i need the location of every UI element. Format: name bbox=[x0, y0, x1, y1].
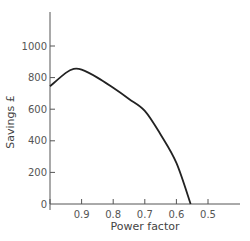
y-axis-title: Savings £ bbox=[4, 95, 17, 148]
x-tick-label: 0.8 bbox=[105, 209, 121, 220]
savings-vs-power-factor-chart: 02004006008001000 0.90.80.70.60.5 Power … bbox=[0, 0, 250, 241]
x-ticks: 0.90.80.70.60.5 bbox=[50, 199, 216, 220]
y-tick-label: 400 bbox=[28, 135, 47, 146]
savings-curve bbox=[50, 69, 191, 204]
x-tick-label: 0.5 bbox=[200, 209, 216, 220]
x-tick-label: 0.9 bbox=[74, 209, 90, 220]
y-tick-label: 800 bbox=[28, 72, 47, 83]
y-tick-label: 200 bbox=[28, 167, 47, 178]
y-tick-label: 0 bbox=[41, 199, 47, 210]
x-axis-title: Power factor bbox=[111, 220, 180, 233]
y-tick-label: 600 bbox=[28, 104, 47, 115]
x-tick-label: 0.7 bbox=[137, 209, 153, 220]
x-tick-label: 0.6 bbox=[168, 209, 184, 220]
y-tick-label: 1000 bbox=[22, 41, 47, 52]
